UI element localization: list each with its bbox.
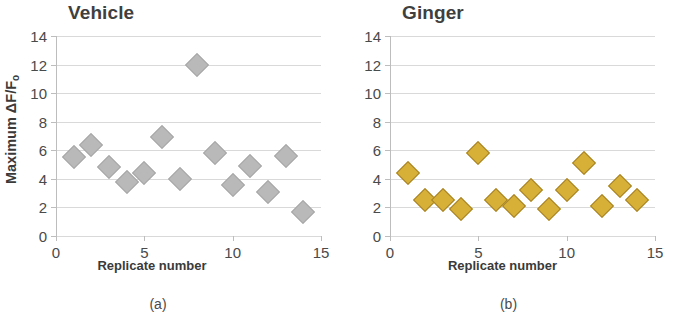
gridline-y	[390, 236, 655, 237]
data-point	[274, 144, 298, 168]
panel-title-ginger: Ginger	[402, 2, 464, 24]
y-axis-label-text: Maximum ΔF/F	[3, 81, 19, 184]
y-axis-tick-label: 4	[39, 170, 47, 187]
x-axis-tick	[567, 236, 568, 241]
data-point	[555, 178, 579, 202]
y-axis-label-subscript: o	[10, 75, 21, 81]
gridline-y	[56, 207, 321, 208]
x-axis-tick	[478, 236, 479, 241]
gridline-y	[56, 93, 321, 94]
data-point	[466, 141, 490, 165]
x-axis-tick	[321, 236, 322, 241]
y-axis-tick-label: 10	[30, 85, 47, 102]
subcaption-b: (b)	[340, 296, 677, 312]
y-axis-line	[56, 36, 57, 236]
data-point	[608, 174, 632, 198]
data-point	[572, 151, 596, 175]
gridline-y	[390, 65, 655, 66]
data-point	[256, 180, 280, 204]
y-axis-tick-label: 8	[39, 113, 47, 130]
gridline-y	[390, 150, 655, 151]
panel-ginger: Ginger 02468101214051015 Replicate numbe…	[340, 0, 677, 323]
y-axis-line	[390, 36, 391, 236]
data-point	[625, 188, 649, 212]
data-point	[97, 155, 121, 179]
data-point	[150, 125, 174, 149]
y-axis-tick-label: 6	[373, 142, 381, 159]
data-point	[396, 161, 420, 185]
y-axis-tick-label: 0	[373, 228, 381, 245]
y-axis-tick-label: 12	[364, 56, 381, 73]
x-axis-tick	[390, 236, 391, 241]
gridline-y	[56, 236, 321, 237]
gridline-y	[56, 36, 321, 37]
data-point	[238, 154, 262, 178]
panel-vehicle: Vehicle Maximum ΔF/Fo 02468101214051015 …	[0, 0, 340, 323]
y-axis-tick-label: 10	[364, 85, 381, 102]
plot-area-vehicle: 02468101214051015	[56, 36, 321, 236]
gridline-y	[390, 36, 655, 37]
y-axis-tick-label: 6	[39, 142, 47, 159]
subcaption-a: (a)	[0, 296, 328, 312]
x-axis-label-vehicle: Replicate number	[0, 258, 322, 273]
data-point	[291, 200, 315, 224]
data-point	[185, 53, 209, 77]
gridline-y	[390, 122, 655, 123]
gridline-y	[390, 93, 655, 94]
y-axis-tick-label: 4	[373, 170, 381, 187]
x-axis-tick	[233, 236, 234, 241]
y-axis-tick-label: 2	[39, 199, 47, 216]
gridline-y	[56, 122, 321, 123]
data-point	[221, 173, 245, 197]
panel-title-vehicle: Vehicle	[68, 2, 134, 24]
data-point	[203, 141, 227, 165]
data-point	[168, 167, 192, 191]
y-axis-tick-label: 14	[30, 28, 47, 45]
x-axis-tick	[144, 236, 145, 241]
data-point	[537, 197, 561, 221]
y-axis-tick-label: 8	[373, 113, 381, 130]
y-axis-tick-label: 12	[30, 56, 47, 73]
x-axis-label-ginger: Replicate number	[334, 258, 671, 273]
y-axis-tick-label: 14	[364, 28, 381, 45]
y-axis-tick-label: 2	[373, 199, 381, 216]
plot-area-ginger: 02468101214051015	[390, 36, 655, 236]
data-point	[590, 194, 614, 218]
data-point	[519, 178, 543, 202]
y-axis-tick-label: 0	[39, 228, 47, 245]
x-axis-tick	[655, 236, 656, 241]
figure-scatter-panels: Vehicle Maximum ΔF/Fo 02468101214051015 …	[0, 0, 677, 323]
x-axis-tick	[56, 236, 57, 241]
y-axis-label: Maximum ΔF/Fo	[3, 39, 22, 219]
